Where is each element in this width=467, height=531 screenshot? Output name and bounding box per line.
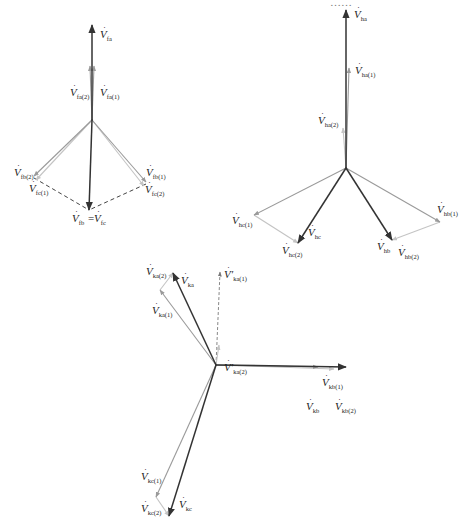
label-v-fb-dot-accent: · [75,206,78,216]
label-v-fb: Vfb [72,212,84,226]
vector-v-fb-2-arrow-icon [34,120,92,176]
vector-v-fb-v-fc-arrow-icon [89,120,92,210]
label-v-kc-2-dot-accent: · [144,496,147,506]
label-v-ka-dot-accent: · [184,268,187,278]
label-v-fb-2-dot-accent: · [17,160,20,170]
label-v-fa-1-dot-accent: · [103,80,106,90]
vector-v-fc-1-arrow-icon [36,120,92,180]
label-v-kc-1-dot-accent: · [144,464,147,474]
label-v-hc: Vhc [308,226,321,240]
vector-v-kc-arrow-icon [169,365,216,516]
label-v-ha-2-dot-accent: · [321,108,324,118]
phasor-group-f-point: Vfa·Vfa(2)·Vfa(1)·Vfb(2)·Vfc(1)·Vfb(1)·V… [14,22,166,226]
vector-v-hb-arrow-icon [346,168,392,240]
phasor-group-k-point: Vka(2)·Vka·Vka(1)·V′ka(1)·V′ka(2)·Vkb(1)… [141,259,356,517]
label-v-kb-dot-accent: · [309,394,312,404]
phasor-diagram-canvas: …… Vfa·Vfa(2)·Vfa(1)·Vfb(2)·Vfc(1)·Vfb(1… [0,0,467,531]
label-vprime-ka-1-dot-accent: · [227,262,230,272]
vector-v-kb-1-arrow-icon [216,365,346,367]
label-v-hb: Vhb [377,240,390,254]
vector-v-hb-1-arrow-icon [346,168,440,222]
origin-point [345,167,347,169]
label-v-ka: Vka [181,274,194,288]
diagram-layer: Vfa·Vfa(2)·Vfa(1)·Vfb(2)·Vfc(1)·Vfb(1)·V… [14,2,458,517]
label-v-ha-1-dot-accent: · [358,58,361,68]
vector-v-kc-1-arrow-icon [156,365,216,497]
cropped-top-text: …… [330,0,352,8]
label-v-fa-dot-accent: · [103,22,106,32]
label-v-ka-2-dot-accent: · [149,259,152,269]
vector-v-hc-arrow-icon [298,168,346,243]
vector-v-hc-1-arrow-icon [254,168,346,215]
vector-v-hb-2-seg-arrow-icon [392,222,440,240]
vector-v-fb-1-arrow-icon [92,120,146,182]
label-v-fc-dot-accent: · [97,206,100,216]
label-v-hc-1-dot-accent: · [235,208,238,218]
label-vprime-ka-2-dot-accent: · [227,355,230,365]
label-v-hb-1-dot-accent: · [440,197,443,207]
vector-v-fc-2-arrow-icon [92,120,144,186]
label-v-ha-dot-accent: · [357,2,360,12]
label-v-kc-dot-accent: · [182,492,185,502]
phasor-group-h-point: Vha·Vha(1)·Vha(2)·Vhc(1)·Vhc·Vhc(2)·Vhb(… [232,2,458,261]
label-v-fc-1-dot-accent: · [32,176,35,186]
label-v-ha: Vha [354,8,367,22]
label-v-ka-1-dot-accent: · [155,298,158,308]
vector-v-ka-arrow-icon [173,273,216,365]
label-v-kc: Vkc [179,498,192,512]
label-v-hb-dot-accent: · [380,234,383,244]
vector-v-hc-2-seg-arrow-icon [254,215,298,243]
label-v-hc-dot-accent: · [311,220,314,230]
label-v-hb-2-dot-accent: · [401,240,404,250]
label-v-fa-2-dot-accent: · [73,80,76,90]
label-v-kb-1-dot-accent: · [325,370,328,380]
label-v-fb-1-dot-accent: · [149,160,152,170]
origin-point [215,364,217,366]
label-v-hc-2-dot-accent: · [285,238,288,248]
vector-v-ka-1-arrow-icon [160,290,216,365]
label-v-kb: Vkb [306,400,319,414]
label-v-fc-2-dot-accent: · [148,177,151,187]
origin-point [91,119,93,121]
label-v-kb-2-dot-accent: · [338,394,341,404]
